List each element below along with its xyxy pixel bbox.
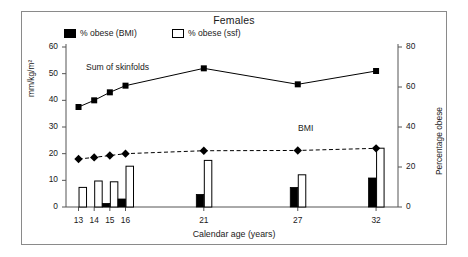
chart-title: Females <box>0 14 468 26</box>
y-tick-label-right: 20 <box>406 161 428 171</box>
x-axis-label: Calendar age (years) <box>0 229 468 239</box>
chart-figure: Females % obese (BMI) % obese (ssf) mm/k… <box>0 0 468 257</box>
x-tick-label: 16 <box>111 215 141 225</box>
y-tick-label-left: 50 <box>36 68 58 78</box>
y-tick-label-left: 0 <box>36 201 58 211</box>
legend-item-obese-bmi: % obese (BMI) <box>64 28 137 38</box>
y-tick-label-left: 30 <box>36 121 58 131</box>
y-axis-left-label: mm/kg/m² <box>26 60 36 97</box>
y-tick-label-left: 10 <box>36 174 58 184</box>
legend-swatch-filled-square-icon <box>64 29 76 38</box>
x-tick-label: 32 <box>361 215 391 225</box>
x-tick-label: 21 <box>189 215 219 225</box>
figure-frame <box>21 11 447 245</box>
y-axis-right-label: Percentage obese <box>434 107 444 175</box>
y-tick-label-right: 0 <box>406 201 428 211</box>
legend-label-obese-bmi: % obese (BMI) <box>80 28 137 38</box>
annotation-bmi: BMI <box>298 123 313 133</box>
x-tick-label: 27 <box>283 215 313 225</box>
legend-label-obese-ssf: % obese (ssf) <box>188 28 241 38</box>
legend-swatch-open-square-icon <box>172 29 184 38</box>
y-tick-label-right: 40 <box>406 121 428 131</box>
legend-item-obese-ssf: % obese (ssf) <box>172 28 241 38</box>
y-tick-label-left: 20 <box>36 148 58 158</box>
y-tick-label-right: 60 <box>406 81 428 91</box>
annotation-sum-of-skinfolds: Sum of skinfolds <box>86 62 149 72</box>
y-tick-label-left: 60 <box>36 41 58 51</box>
y-tick-label-left: 40 <box>36 94 58 104</box>
y-tick-label-right: 80 <box>406 41 428 51</box>
